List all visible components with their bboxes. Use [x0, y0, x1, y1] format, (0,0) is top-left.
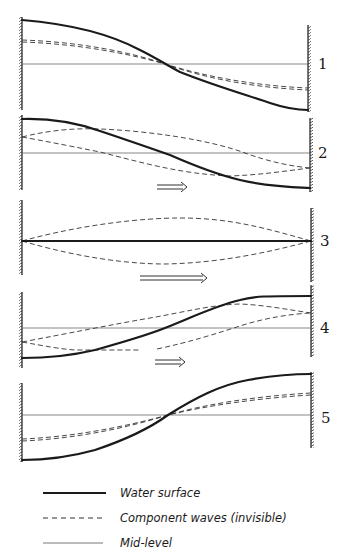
legend-label: Water surface — [120, 486, 200, 500]
standing-wave-diagram: 12345 Water surfaceComponent waves (invi… — [0, 0, 345, 557]
water-surface-line — [22, 119, 310, 188]
component-wave-2 — [22, 42, 308, 90]
legend: Water surfaceComponent waves (invisible)… — [43, 486, 287, 550]
component-wave-1 — [22, 129, 310, 168]
component-wave-1 — [22, 218, 311, 241]
water-surface-line — [22, 374, 311, 460]
panel-2: 2 — [19, 115, 328, 192]
component-wave-2 — [22, 313, 311, 350]
legend-item-thin: Mid-level — [43, 536, 173, 550]
legend-label: Mid-level — [120, 536, 173, 550]
component-wave-2 — [22, 241, 311, 264]
panel-number: 5 — [321, 409, 331, 427]
panel-number: 2 — [318, 144, 328, 162]
panel-number: 3 — [320, 232, 330, 250]
legend-item-dashed: Component waves (invisible) — [43, 511, 287, 525]
panel-number: 4 — [320, 319, 330, 337]
component-wave-2 — [22, 395, 311, 441]
direction-arrow-icon — [155, 357, 185, 367]
wave-panels: 12345 — [19, 17, 331, 462]
diagram-canvas: 12345 Water surfaceComponent waves (invi… — [0, 0, 345, 557]
panel-number: 1 — [318, 55, 328, 73]
component-wave-1 — [22, 304, 311, 342]
panel-3: 3 — [19, 200, 330, 283]
component-wave-2 — [22, 137, 310, 176]
direction-arrow-icon — [157, 182, 187, 192]
panel-5: 5 — [19, 372, 331, 462]
water-surface-line — [22, 20, 308, 110]
legend-label: Component waves (invisible) — [120, 511, 287, 525]
direction-arrow-icon — [140, 273, 207, 283]
panel-1: 1 — [19, 17, 328, 112]
panel-4: 4 — [19, 285, 330, 368]
legend-item-solid: Water surface — [43, 486, 200, 500]
